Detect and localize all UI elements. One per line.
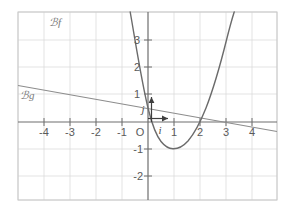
x-tick-label-neg3: -3 (65, 126, 75, 138)
curve-f-label: ℬf (49, 16, 63, 28)
y-tick-label-pos1: 1 (134, 88, 140, 100)
y-tick-label-neg1: -1 (133, 143, 143, 155)
x-tick-label-neg1: -1 (117, 126, 127, 138)
x-tick-label-neg2: -2 (91, 126, 101, 138)
origin-label: O (136, 126, 145, 138)
curve-g-label: ℬg (20, 89, 35, 101)
x-tick-label-pos4: 4 (249, 126, 255, 138)
x-tick-label-pos1: 1 (171, 126, 177, 138)
graph-figure: -4 -3 -2 -1 1 2 3 4 3 2 1 -1 -2 O i j ℬf… (0, 0, 293, 214)
y-tick-label-pos3: 3 (134, 34, 140, 46)
x-tick-label-pos3: 3 (223, 126, 229, 138)
coordinate-plot: -4 -3 -2 -1 1 2 3 4 3 2 1 -1 -2 O i j ℬf… (0, 0, 293, 214)
vector-i-label: i (158, 124, 161, 136)
x-tick-label-neg4: -4 (39, 126, 49, 138)
x-tick-label-pos2: 2 (197, 126, 203, 138)
y-tick-label-pos2: 2 (134, 61, 140, 73)
y-tick-label-neg2: -2 (133, 170, 143, 182)
